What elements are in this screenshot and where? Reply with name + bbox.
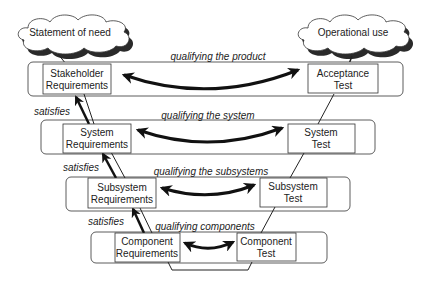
- connector-line: [318, 94, 334, 124]
- satisfies-label: satisfies: [63, 162, 99, 173]
- cloud-left-label: Statement of need: [29, 27, 111, 38]
- svg-text:Requirements: Requirements: [91, 194, 153, 205]
- connector-line: [290, 153, 304, 178]
- satisfies-label: satisfies: [34, 106, 70, 117]
- svg-text:Stakeholder: Stakeholder: [50, 68, 104, 79]
- svg-text:Subsystem: Subsystem: [268, 181, 317, 192]
- cloud-right-label: Operational use: [318, 27, 389, 38]
- qualifying-label-subsystem: qualifying the subsystems: [154, 166, 269, 177]
- svg-text:Test: Test: [257, 248, 276, 259]
- box-stakeholder-requirements: Stakeholder Requirements: [43, 64, 111, 94]
- svg-text:Test: Test: [284, 193, 303, 204]
- svg-text:Requirements: Requirements: [66, 139, 128, 150]
- svg-text:Test: Test: [312, 139, 331, 150]
- box-subsystem-requirements: Subsystem Requirements: [88, 178, 156, 208]
- qualifying-label-system: qualifying the system: [161, 110, 254, 121]
- svg-text:Requirements: Requirements: [116, 248, 178, 259]
- svg-text:Component: Component: [240, 236, 292, 247]
- box-subsystem-test: Subsystem Test: [260, 178, 327, 207]
- svg-text:Acceptance: Acceptance: [317, 68, 370, 79]
- v-model-diagram: Statement of need Operational use Stakeh…: [0, 0, 432, 288]
- svg-text:Test: Test: [334, 80, 353, 91]
- svg-text:Requirements: Requirements: [46, 80, 108, 91]
- svg-text:System: System: [80, 127, 113, 138]
- qualifying-label-component: qualifying components: [155, 221, 255, 232]
- box-system-test: System Test: [288, 124, 355, 153]
- svg-text:System: System: [304, 127, 337, 138]
- svg-text:Subsystem: Subsystem: [97, 182, 146, 193]
- cloud-statement-of-need: Statement of need: [18, 15, 133, 59]
- cloud-operational-use: Operational use: [298, 15, 413, 59]
- svg-text:Component: Component: [121, 236, 173, 247]
- qualifying-label-product: qualifying the product: [170, 51, 266, 62]
- box-acceptance-test: Acceptance Test: [308, 64, 378, 93]
- box-component-test: Component Test: [237, 233, 296, 261]
- box-component-requirements: Component Requirements: [115, 233, 180, 262]
- satisfies-label: satisfies: [88, 216, 124, 227]
- box-system-requirements: System Requirements: [63, 124, 131, 153]
